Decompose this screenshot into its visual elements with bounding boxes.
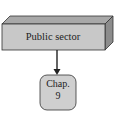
chapter-node-line2: 9 <box>40 90 76 102</box>
arrow-head-icon <box>54 69 61 75</box>
sector-box-top-face <box>2 16 113 24</box>
public-sector-label: Public sector <box>2 25 104 49</box>
chapter-node-line1: Chap. <box>40 78 76 90</box>
chapter-node-label: Chap. 9 <box>40 78 76 102</box>
